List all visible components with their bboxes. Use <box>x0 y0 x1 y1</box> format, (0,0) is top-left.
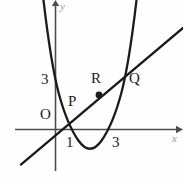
x-tick-label-3: 3 <box>112 135 120 150</box>
point-r-marker <box>96 92 103 99</box>
x-tick-label-1: 1 <box>66 135 74 150</box>
math-figure: 3 1 3 O P R Q x y <box>0 0 183 186</box>
y-axis-arrowhead <box>52 0 59 6</box>
point-label-p: P <box>68 94 76 109</box>
y-axis <box>52 0 59 171</box>
x-axis-arrowhead <box>176 126 183 133</box>
x-axis <box>15 126 183 133</box>
y-tick-label-3: 3 <box>41 72 49 87</box>
origin-label: O <box>40 107 51 122</box>
y-axis-label: y <box>60 1 65 12</box>
x-axis-label: x <box>172 133 177 144</box>
point-label-r: R <box>91 71 101 86</box>
figure-canvas <box>0 0 183 186</box>
point-label-q: Q <box>129 71 140 86</box>
